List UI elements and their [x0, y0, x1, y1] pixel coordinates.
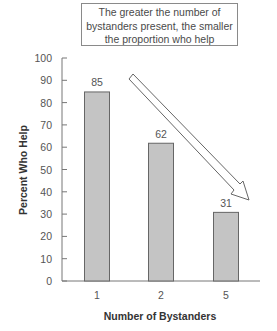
y-tick-label: 80: [40, 97, 52, 109]
y-tick-label: 20: [40, 230, 52, 242]
y-tick-label: 40: [40, 186, 52, 198]
y-tick-label: 0: [46, 275, 52, 287]
y-tick-label: 50: [40, 164, 52, 176]
y-axis-label: Percent Who Help: [17, 115, 29, 225]
y-tick-label: 10: [40, 253, 52, 265]
data-label: 85: [91, 76, 103, 88]
bar-chart: 0102030405060708090100851622315: [0, 0, 277, 331]
data-label: 31: [220, 197, 232, 209]
x-tick-label: 5: [223, 289, 229, 301]
y-tick-label: 60: [40, 141, 52, 153]
x-tick-label: 1: [94, 289, 100, 301]
bar-2: [149, 143, 174, 281]
y-tick-label: 90: [40, 74, 52, 86]
bar-1: [85, 92, 110, 281]
y-tick-label: 100: [34, 52, 52, 64]
data-label: 62: [155, 128, 167, 140]
y-tick-label: 70: [40, 119, 52, 131]
y-tick-label: 30: [40, 208, 52, 220]
trend-arrow-icon: [129, 74, 249, 200]
x-axis-label: Number of Bystanders: [60, 310, 260, 322]
bar-5: [214, 212, 239, 281]
x-tick-label: 2: [158, 289, 164, 301]
